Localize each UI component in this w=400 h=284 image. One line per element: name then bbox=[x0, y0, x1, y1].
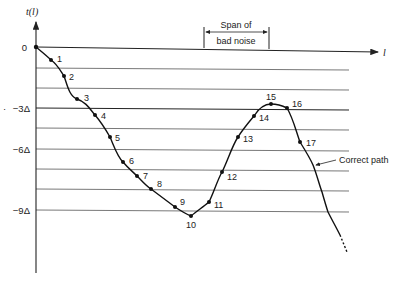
span-annotation: Span of bad noise bbox=[204, 20, 269, 49]
correct-path-curve bbox=[36, 47, 340, 235]
y-tick-minus-3: −3Δ bbox=[13, 103, 31, 114]
path-nodes bbox=[34, 45, 302, 218]
node-label-14: 14 bbox=[259, 113, 269, 123]
node-7 bbox=[135, 174, 139, 178]
node-label-5: 5 bbox=[115, 133, 120, 143]
y-tick-minus-6: −6Δ bbox=[13, 144, 31, 155]
node-6 bbox=[121, 160, 125, 164]
y-tick-0: 0 bbox=[22, 42, 27, 53]
node-label-12: 12 bbox=[227, 172, 237, 182]
node-15 bbox=[269, 102, 273, 106]
node-label-7: 7 bbox=[143, 171, 148, 181]
node-label-8: 8 bbox=[157, 179, 162, 189]
node-0 bbox=[34, 45, 38, 49]
node-label-3: 3 bbox=[84, 93, 89, 103]
node-13 bbox=[236, 135, 240, 139]
node-1 bbox=[49, 58, 53, 62]
span-label-line1: Span of bbox=[220, 20, 252, 30]
node-label-15: 15 bbox=[266, 92, 276, 102]
grid-lines bbox=[36, 68, 349, 212]
node-labels: 1 2 3 4 5 6 7 8 9 10 11 12 13 14 15 16 1… bbox=[57, 54, 316, 230]
y-tick-minus-9: −9Δ bbox=[13, 205, 31, 216]
path-label-arrow bbox=[316, 160, 336, 165]
x-axis bbox=[36, 47, 378, 52]
y-axis-label: t(l) bbox=[26, 6, 39, 18]
node-label-13: 13 bbox=[243, 134, 253, 144]
node-label-2: 2 bbox=[69, 72, 74, 82]
correct-path-continuation bbox=[340, 235, 347, 252]
node-label-4: 4 bbox=[101, 111, 106, 121]
node-5 bbox=[108, 135, 112, 139]
node-label-9: 9 bbox=[180, 197, 185, 207]
span-label-line2: bad noise bbox=[216, 36, 255, 46]
node-14 bbox=[252, 114, 256, 118]
x-axis-label: l bbox=[383, 47, 386, 58]
node-2 bbox=[62, 74, 66, 78]
stray-mark: · bbox=[3, 103, 6, 114]
node-8 bbox=[149, 187, 153, 191]
node-3 bbox=[75, 97, 79, 101]
node-11 bbox=[207, 200, 211, 204]
node-label-10: 10 bbox=[186, 220, 196, 230]
trellis-path-diagram: l t(l) 0 −3Δ −6Δ −9Δ · Span of bad noise… bbox=[0, 0, 400, 284]
node-label-17: 17 bbox=[306, 138, 316, 148]
node-label-16: 16 bbox=[292, 99, 302, 109]
node-label-6: 6 bbox=[129, 156, 134, 166]
node-10 bbox=[189, 214, 193, 218]
node-17 bbox=[298, 140, 302, 144]
node-4 bbox=[93, 113, 97, 117]
node-12 bbox=[220, 170, 224, 174]
node-label-1: 1 bbox=[57, 54, 62, 64]
correct-path-label: Correct path bbox=[339, 155, 389, 165]
node-16 bbox=[285, 106, 289, 110]
node-9 bbox=[173, 205, 177, 209]
node-label-11: 11 bbox=[214, 200, 223, 210]
